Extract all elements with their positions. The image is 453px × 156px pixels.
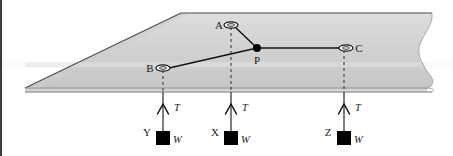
- plate-highlight-band: [25, 62, 425, 67]
- hanger-label-X: X: [211, 126, 219, 138]
- weight-block-Z: [337, 131, 351, 145]
- label-B: B: [146, 62, 153, 74]
- hanger-label-Y: Y: [143, 126, 151, 138]
- load-label-Z: W: [354, 134, 364, 145]
- knot-point-P: [253, 44, 261, 52]
- label-A: A: [215, 19, 223, 31]
- load-label-Y: W: [173, 134, 183, 145]
- label-P: P: [254, 54, 260, 66]
- eyelet-C: [339, 45, 353, 51]
- weight-block-Y: [156, 131, 170, 145]
- load-label-X: W: [241, 134, 251, 145]
- physics-diagram-figure: A B C P Y T W X T W Z T W: [0, 0, 453, 156]
- diagram-canvas: A B C P Y T W X T W Z T W: [0, 0, 453, 156]
- plate-front-edge: [25, 88, 427, 92]
- weight-block-X: [224, 131, 238, 145]
- label-C: C: [355, 42, 362, 54]
- eyelet-B: [156, 65, 170, 71]
- hanger-label-Z: Z: [325, 126, 332, 138]
- eyelet-A: [224, 22, 238, 28]
- left-page-border: [0, 0, 2, 156]
